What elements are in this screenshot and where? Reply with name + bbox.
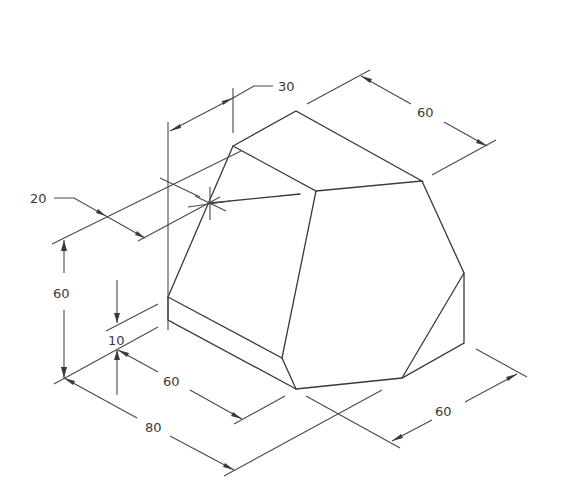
arrowhead [61, 240, 67, 251]
arrowhead [64, 378, 75, 385]
front-corner-edge [282, 358, 296, 389]
dimension-30: 30 [168, 79, 295, 330]
object-edges [168, 111, 464, 389]
arrowhead [170, 124, 181, 131]
arrowhead [223, 463, 234, 470]
arrowhead [231, 412, 242, 419]
extension-line [138, 197, 220, 241]
arrowhead [476, 139, 487, 146]
dimension-20: 20 [30, 151, 241, 244]
dimension-60-top: 60 [307, 70, 496, 175]
extension-line [307, 70, 370, 104]
extension-line [306, 396, 400, 448]
arrowhead [222, 98, 233, 105]
arrowhead [392, 434, 403, 441]
right-face-edges [296, 181, 464, 389]
extension-line [224, 390, 382, 476]
dim-label-30: 30 [278, 79, 295, 94]
right-diagonal-edge [402, 273, 464, 378]
arrowhead [96, 209, 106, 216]
leader-line [233, 86, 273, 98]
front-base-edge [168, 297, 296, 389]
dim-label-20: 20 [30, 191, 47, 206]
top-face-edges [233, 111, 422, 191]
dimension-60-height: 60 [53, 240, 70, 378]
dim-label-80: 80 [145, 420, 162, 435]
front-upper-base-edge [168, 297, 282, 358]
arrowhead [61, 367, 67, 378]
isometric-drawing: 30 60 20 60 10 [0, 0, 563, 490]
extension-line [234, 396, 285, 424]
extension-line [52, 151, 241, 244]
arrowhead [506, 374, 517, 381]
drawing-canvas: 30 60 20 60 10 [0, 0, 563, 490]
dimension-60-right: 60 [306, 349, 527, 448]
dimension-80: 80 [64, 378, 382, 476]
dim-label-10: 10 [108, 333, 125, 348]
dim-label-60-top: 60 [417, 105, 434, 120]
front-center-edge [282, 191, 316, 358]
extension-line [54, 327, 158, 384]
dim-label-60-right: 60 [435, 404, 452, 419]
arrowhead [361, 76, 372, 83]
arrowhead [114, 350, 120, 360]
extension-line [476, 349, 527, 377]
dim-label-60-height: 60 [53, 286, 70, 301]
dimension-10: 10 [54, 280, 158, 395]
dimension-60-front: 60 [118, 350, 285, 424]
arrowhead [118, 350, 129, 357]
dimension-line [64, 378, 137, 418]
extension-line [106, 304, 158, 331]
arrowhead [135, 231, 145, 238]
left-slant-edge [168, 146, 233, 297]
leader-dimension-line [54, 198, 145, 238]
dim-label-60-front: 60 [163, 374, 180, 389]
arrowhead [114, 313, 120, 323]
